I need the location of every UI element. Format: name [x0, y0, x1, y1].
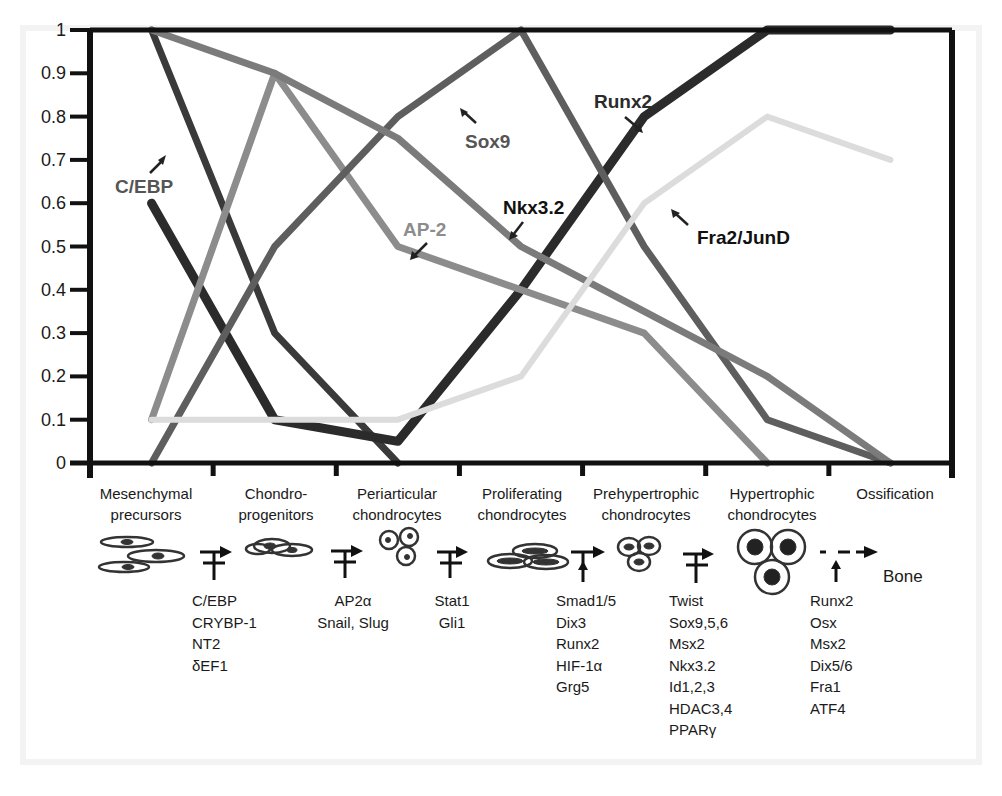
- stage-label: Hypertrophicchondrocytes: [727, 483, 816, 525]
- regulator-list: Stat1Gli1: [432, 590, 472, 633]
- prehypertrophic-cells-icon: [618, 537, 660, 571]
- y-tick-label: 0.7: [41, 150, 66, 170]
- stage-label: Ossification: [856, 483, 934, 504]
- stage-label: Proliferatingchondrocytes: [477, 483, 566, 525]
- label-fra2-jund: Fra2/JunD: [697, 227, 790, 248]
- cell-diagram: [99, 528, 878, 594]
- proliferating-cells-icon: [488, 544, 568, 569]
- stage-label: Mesenchymalprecursors: [100, 483, 193, 525]
- label-ap2: AP-2: [403, 219, 446, 240]
- dashed-arrow-to-bone-icon: [820, 546, 878, 582]
- inhibited-arrow-icon: [437, 546, 468, 578]
- label-runx2: Runx2: [594, 91, 652, 112]
- y-tick-label: 0.3: [41, 323, 66, 343]
- regulator-list: Smad1/5Dix3Runx2HIF-1αGrg5: [556, 590, 616, 698]
- regulator-list: Runx2OsxMsx2Dix5/6Fra1ATF4: [810, 590, 853, 719]
- promoted-arrow-icon: [571, 546, 605, 582]
- inhibited-arrow-icon: [683, 548, 714, 583]
- stage-label: Periarticularchondrocytes: [352, 483, 441, 525]
- stage-label: Prehypertrophicchondrocytes: [593, 483, 699, 525]
- y-axis: 00.10.20.30.40.50.60.70.80.91: [41, 20, 90, 473]
- label-sox9: Sox9: [465, 131, 510, 152]
- y-tick-label: 0.2: [41, 366, 66, 386]
- arrow-icon: [513, 222, 523, 235]
- y-tick-label: 0.6: [41, 193, 66, 213]
- series-line-ap-2: [152, 73, 768, 463]
- regulator-list: AP2αSnail, Slug: [303, 590, 403, 633]
- y-tick-label: 0.5: [41, 237, 66, 257]
- regulator-list: C/EBPCRYBP-1NT2δEF1: [192, 590, 257, 676]
- inhibited-arrow-icon: [200, 546, 232, 580]
- label-cebp: C/EBP: [115, 176, 173, 197]
- y-tick-label: 0.1: [41, 410, 66, 430]
- y-tick-label: 0.9: [41, 63, 66, 83]
- hypertrophic-cells-icon: [738, 530, 805, 594]
- y-tick-label: 0: [56, 453, 66, 473]
- y-tick-label: 0.8: [41, 107, 66, 127]
- periarticular-cells-icon: [380, 528, 418, 565]
- mesenchymal-cells-icon: [99, 537, 184, 572]
- label-nkx32: Nkx3.2: [503, 197, 564, 218]
- bone-label: Bone: [883, 567, 923, 587]
- regulator-list: TwistSox9,5,6Msx2Nkx3.2Id1,2,3HDAC3,4PPA…: [669, 590, 732, 741]
- inhibited-arrow-icon: [331, 545, 363, 578]
- arrow-icon: [676, 214, 688, 225]
- stage-label: Chondro-progenitors: [238, 483, 313, 525]
- chondroprogenitor-cells-icon: [246, 539, 312, 556]
- y-tick-label: 0.4: [41, 280, 66, 300]
- y-tick-label: 1: [56, 20, 66, 40]
